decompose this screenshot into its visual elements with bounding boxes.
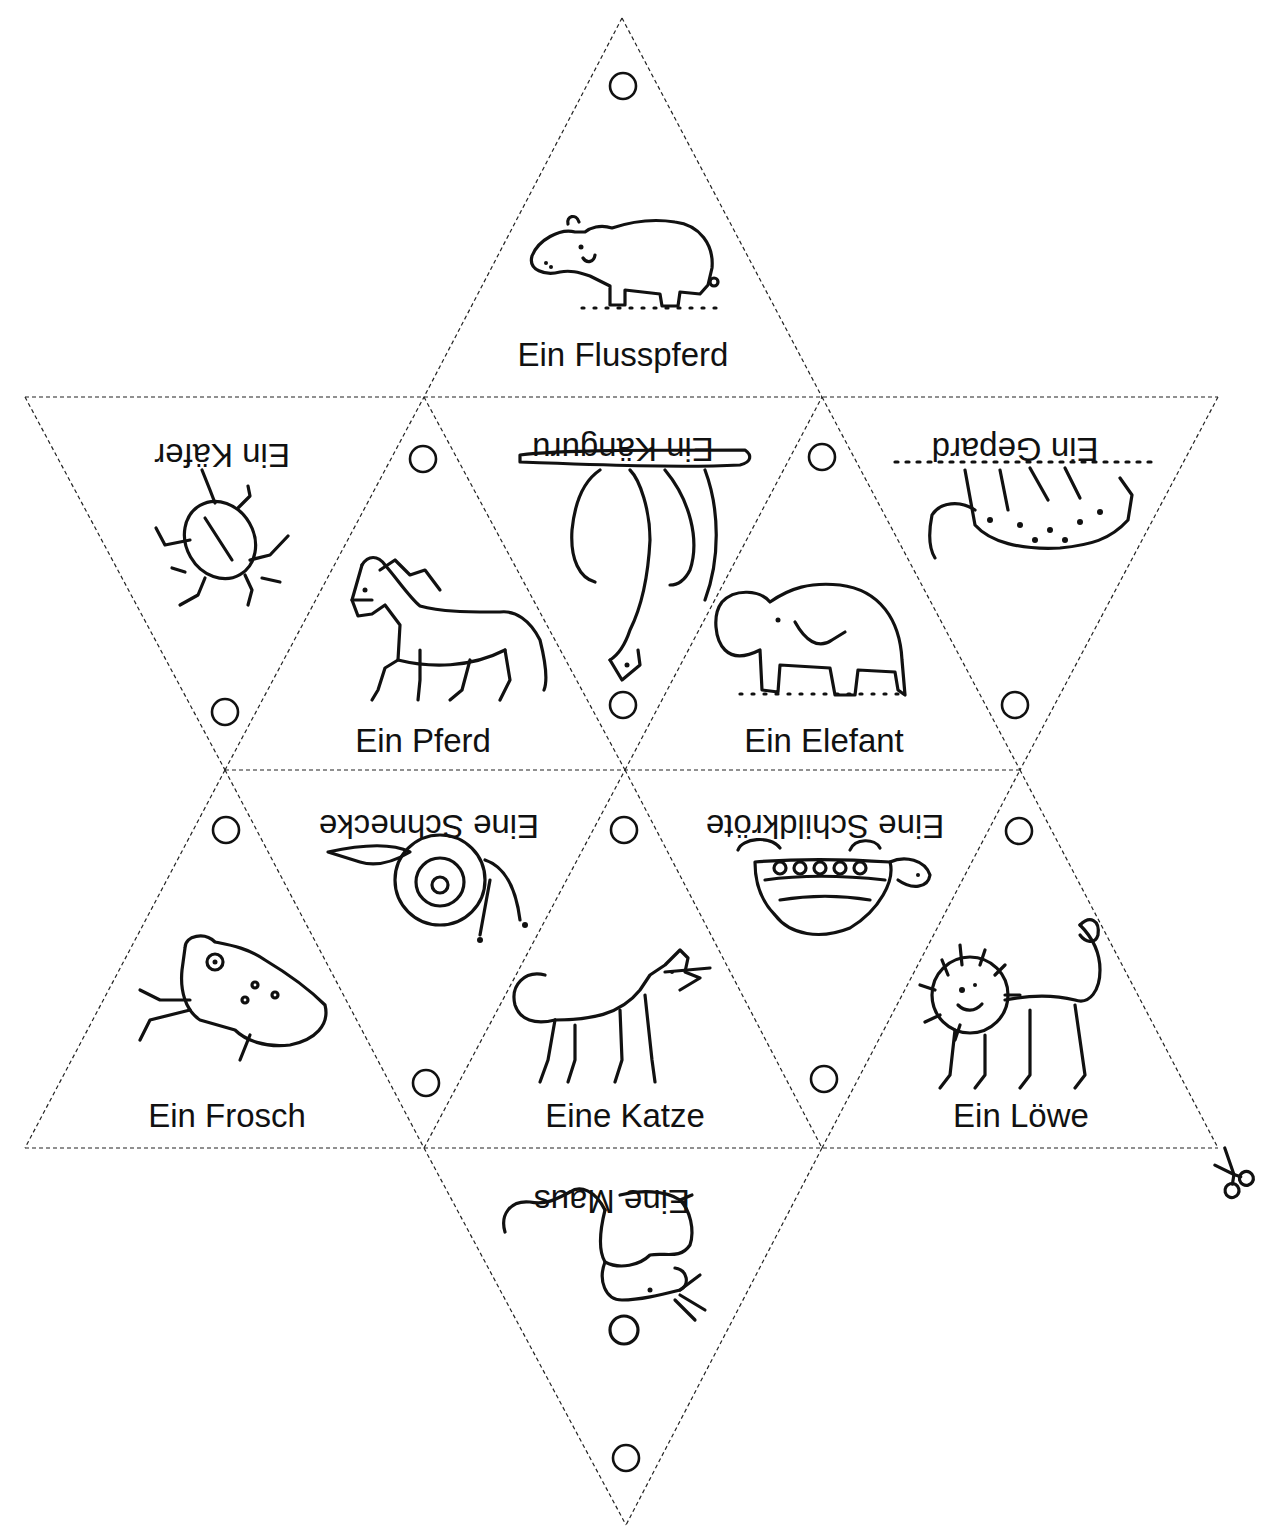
label-frosch: Ein Frosch: [148, 1097, 306, 1134]
hole-loewe: [1006, 818, 1032, 844]
kangaroo-illustration: [520, 450, 750, 680]
elephant-illustration: [716, 584, 908, 695]
label-katze: Eine Katze: [545, 1097, 705, 1134]
label-kaefer: Ein Käfer: [154, 437, 290, 474]
label-pferd: Ein Pferd: [355, 722, 491, 759]
lion-illustration: [920, 920, 1100, 1088]
hole-schildkroete: [811, 1066, 837, 1092]
hole-kaenguru: [610, 692, 636, 718]
label-loewe: Ein Löwe: [953, 1097, 1089, 1134]
cat-illustration: [514, 950, 710, 1082]
cheetah-illustration: [895, 462, 1158, 558]
star-worksheet: Ein Flusspferd Ein Pferd Ein Elefant Ein…: [0, 0, 1269, 1533]
hole-frosch: [213, 817, 239, 843]
scissors-icon: [1211, 1143, 1257, 1200]
turtle-illustration: [738, 840, 930, 935]
hole-gepard: [1002, 692, 1028, 718]
hole-katze: [611, 817, 637, 843]
label-schnecke: Eine Schnecke: [319, 808, 539, 845]
punch-holes: [212, 73, 1032, 1471]
hippo-illustration: [531, 216, 720, 308]
horse-illustration: [352, 558, 546, 701]
label-elefant: Ein Elefant: [744, 722, 904, 759]
label-flusspferd: Ein Flusspferd: [518, 336, 729, 373]
hole-top: [610, 73, 636, 99]
label-maus: Eine Maus: [534, 1183, 690, 1220]
hole-kaefer: [212, 699, 238, 725]
beetle-illustration: [156, 470, 288, 605]
hole-elefant: [809, 444, 835, 470]
labels: Ein Flusspferd Ein Pferd Ein Elefant Ein…: [148, 336, 1098, 1220]
label-schildkroete: Eine Schildkröte: [706, 808, 944, 845]
hole-pferd: [410, 446, 436, 472]
hole-maus: [613, 1445, 639, 1471]
snail-illustration: [328, 835, 528, 943]
frog-illustration: [140, 936, 326, 1060]
hole-schnecke: [413, 1070, 439, 1096]
